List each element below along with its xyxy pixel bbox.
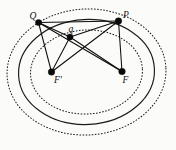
segment-q-to-P xyxy=(70,21,119,37)
focus-F-label: F xyxy=(122,75,129,85)
segment-Q-to-q xyxy=(39,23,71,38)
segment-q-to-F xyxy=(70,37,122,72)
outer-dashed-ellipse xyxy=(4,5,169,139)
segment-Q-to-P xyxy=(39,21,119,23)
segment-P-to-F-prime xyxy=(52,21,119,72)
segment-q-to-F-prime xyxy=(52,37,71,72)
segment-Q-to-F-prime xyxy=(39,23,52,73)
ellipse-family xyxy=(4,5,169,139)
geometry-figure: QqPF'F xyxy=(0,0,176,150)
segment-P-to-F xyxy=(119,21,123,72)
segment-group xyxy=(39,21,123,72)
middle-solid-ellipse xyxy=(16,16,157,128)
focus-F-dot xyxy=(119,68,126,75)
segment-Q-to-F xyxy=(39,23,123,72)
point-P-dot xyxy=(115,18,122,25)
focus-F-prime-label: F' xyxy=(53,75,63,85)
point-q-dot xyxy=(67,34,73,40)
point-q-label: q xyxy=(69,24,74,34)
point-Q-label: Q xyxy=(30,11,37,21)
point-P-label: P xyxy=(122,10,129,20)
diagram-canvas: QqPF'F xyxy=(0,0,176,150)
inner-dashed-ellipse xyxy=(28,27,144,117)
